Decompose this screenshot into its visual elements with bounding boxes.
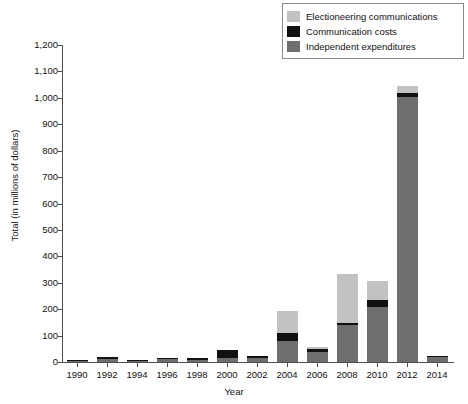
bar-segment-communication-costs [277, 333, 298, 341]
bar-2008 [337, 274, 358, 362]
y-axis-tick-label: 1,100 [0, 66, 58, 76]
x-axis-tick-mark [317, 363, 318, 367]
bar-segment-communication-costs [397, 93, 418, 97]
x-axis-tick-mark [167, 363, 168, 367]
legend-swatch-icon [287, 11, 300, 22]
y-axis-tick-mark [58, 362, 62, 363]
bar-segment-communication-costs [217, 350, 238, 358]
bar-segment-independent-expenditures [247, 358, 268, 362]
x-axis-tick-label: 2010 [362, 369, 392, 380]
bar-2012 [397, 86, 418, 362]
bar-segment-communication-costs [187, 358, 208, 359]
x-axis-line [62, 362, 454, 363]
bar-segment-communication-costs [67, 360, 88, 361]
plot-area [62, 45, 452, 362]
x-axis-tick-label: 2014 [422, 369, 452, 380]
x-axis-tick-mark [287, 363, 288, 367]
x-axis-tick-mark [257, 363, 258, 367]
bar-segment-electioneering-communications [397, 86, 418, 93]
x-axis-tick-mark [137, 363, 138, 367]
bar-segment-communication-costs [427, 356, 448, 357]
bar-segment-electioneering-communications [367, 281, 388, 299]
legend-swatch-icon [287, 26, 300, 37]
x-axis-tick-mark [377, 363, 378, 367]
x-axis-title: Year [0, 386, 468, 397]
bar-segment-independent-expenditures [337, 325, 358, 362]
y-axis-tick-label: 100 [0, 331, 58, 341]
x-axis-tick-label: 2002 [242, 369, 272, 380]
x-axis-tick-label: 1996 [152, 369, 182, 380]
bar-segment-independent-expenditures [307, 352, 328, 362]
bar-segment-communication-costs [157, 358, 178, 360]
bar-2014 [427, 357, 448, 362]
bar-segment-electioneering-communications [277, 311, 298, 333]
bar-segment-electioneering-communications [307, 347, 328, 348]
x-axis-tick-label: 1990 [62, 369, 92, 380]
bar-1992 [97, 357, 118, 362]
x-axis-tick-mark [227, 363, 228, 367]
bar-2004 [277, 311, 298, 363]
bar-segment-independent-expenditures [277, 341, 298, 362]
bar-segment-independent-expenditures [367, 307, 388, 362]
legend-item-communication-costs: Communication costs [287, 24, 458, 38]
bar-segment-independent-expenditures [427, 357, 448, 362]
bar-segment-electioneering-communications [337, 274, 358, 323]
bar-2002 [247, 356, 268, 362]
y-axis-tick-label: 0 [0, 357, 58, 367]
x-axis-tick-label: 2004 [272, 369, 302, 380]
x-axis-tick-label: 2000 [212, 369, 242, 380]
x-axis-tick-label: 2006 [302, 369, 332, 380]
bar-segment-communication-costs [307, 349, 328, 353]
bar-segment-independent-expenditures [97, 359, 118, 362]
bar-segment-communication-costs [127, 360, 148, 361]
bar-2006 [307, 347, 328, 362]
stacked-bar-chart: Electioneering communications Communicat… [0, 0, 468, 404]
bar-1990 [67, 360, 88, 362]
y-axis-title: Total (in millions of dollars) [9, 76, 20, 296]
bar-segment-independent-expenditures [127, 361, 148, 362]
bar-segment-independent-expenditures [67, 361, 88, 362]
bar-segment-communication-costs [247, 356, 268, 358]
x-axis-tick-label: 1994 [122, 369, 152, 380]
bar-1996 [157, 358, 178, 362]
x-axis-tick-label: 2012 [392, 369, 422, 380]
bar-2010 [367, 281, 388, 362]
x-axis-tick-label: 2008 [332, 369, 362, 380]
legend-item-label: Communication costs [306, 26, 397, 37]
x-axis-tick-mark [407, 363, 408, 367]
bar-1994 [127, 360, 148, 362]
x-axis-tick-mark [347, 363, 348, 367]
x-axis-tick-label: 1998 [182, 369, 212, 380]
bar-segment-independent-expenditures [217, 358, 238, 362]
x-axis-tick-mark [107, 363, 108, 367]
bar-segment-independent-expenditures [157, 359, 178, 362]
legend-item-label: Electioneering communications [306, 11, 437, 22]
bar-1998 [187, 359, 208, 362]
x-axis-tick-mark [197, 363, 198, 367]
bar-2000 [217, 350, 238, 362]
bar-segment-communication-costs [97, 357, 118, 359]
x-axis-tick-label: 1992 [92, 369, 122, 380]
bar-segment-communication-costs [337, 323, 358, 325]
y-axis-tick-label: 200 [0, 304, 58, 314]
bar-segment-independent-expenditures [397, 97, 418, 362]
bar-segment-communication-costs [367, 300, 388, 307]
x-axis-tick-mark [437, 363, 438, 367]
legend-item-electioneering-communications: Electioneering communications [287, 9, 458, 23]
bar-segment-independent-expenditures [187, 360, 208, 362]
y-axis-tick-label: 1,200 [0, 40, 58, 50]
x-axis-tick-mark [77, 363, 78, 367]
